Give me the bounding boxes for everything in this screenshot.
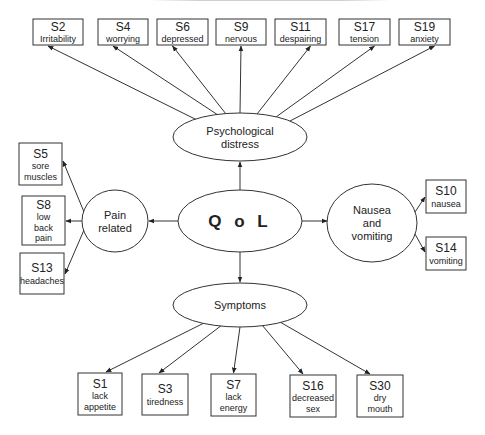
edge-psych-to-s6	[173, 46, 227, 114]
indicator-code: S11	[290, 20, 311, 34]
indicator-s17: S17tension	[339, 19, 390, 45]
indicator-s14: S14vomiting	[426, 237, 466, 270]
edge-symptoms-to-s16	[262, 325, 303, 374]
indicator-s13: S13headaches	[20, 253, 65, 294]
indicator-s16: S16decreasedsex	[290, 375, 336, 417]
indicator-label: nausea	[431, 199, 461, 209]
indicator-label: lack	[225, 392, 242, 402]
edge-symptoms-to-s1	[106, 322, 206, 372]
factor-psych-label: Psychological	[206, 125, 273, 137]
indicator-label: sore	[32, 161, 50, 171]
indicator-code: S17	[354, 20, 376, 34]
indicator-label: vomiting	[429, 256, 463, 266]
nodes-layer: Q o LPsychologicaldistressPainrelatedNau…	[19, 19, 466, 417]
indicator-code: S2	[51, 20, 66, 34]
indicator-label: nervous	[225, 34, 258, 44]
factor-nausea-label: and	[363, 217, 381, 229]
indicator-code: S6	[175, 20, 190, 34]
factor-pain-label: Pain	[104, 209, 126, 221]
qol-center-node-label: Q o L	[208, 212, 271, 231]
qol-center-node: Q o L	[178, 190, 302, 252]
indicator-label: back	[34, 223, 54, 233]
indicator-s7: S7lackenergy	[211, 374, 256, 416]
factor-psych: Psychologicaldistress	[173, 113, 307, 161]
indicator-label: tiredness	[147, 397, 184, 407]
edge-symptoms-to-s3	[159, 325, 222, 373]
indicator-s6: S6depressed	[157, 19, 208, 45]
indicator-code: S3	[158, 382, 173, 396]
qol-path-diagram: Q o LPsychologicaldistressPainrelatedNau…	[0, 0, 485, 435]
indicator-code: S30	[369, 379, 391, 393]
indicator-label: dry	[374, 393, 387, 403]
edge-psych-to-s9	[240, 46, 241, 113]
edge-psych-to-s17	[276, 46, 375, 117]
indicator-label: lack	[92, 391, 109, 401]
indicator-s9: S9nervous	[216, 19, 266, 45]
edge-symptoms-to-s30	[280, 322, 370, 374]
indicator-code: S1	[93, 377, 108, 391]
indicator-s19: S19anxiety	[399, 19, 450, 45]
indicator-label: pain	[35, 233, 52, 243]
indicator-label: energy	[220, 403, 248, 413]
indicator-label: low	[37, 212, 51, 222]
indicator-label: sex	[306, 404, 321, 414]
factor-pain: Painrelated	[82, 190, 148, 252]
indicator-code: S8	[36, 198, 51, 212]
edge-pain-to-s13	[65, 230, 84, 274]
edge-psych-to-s11	[257, 46, 311, 114]
indicator-label: depressed	[161, 34, 203, 44]
factor-pain-label: related	[98, 222, 132, 234]
indicator-label: despairing	[280, 34, 322, 44]
factor-symptoms: Symptoms	[173, 283, 307, 327]
indicator-s11: S11despairing	[275, 19, 326, 45]
indicator-s5: S5soremuscles	[19, 143, 62, 185]
indicator-label: mouth	[367, 404, 392, 414]
indicator-code: S14	[435, 241, 457, 255]
edge-psych-to-s2	[48, 46, 197, 120]
indicator-s3: S3tiredness	[142, 374, 188, 415]
factor-symptoms-label: Symptoms	[214, 299, 266, 311]
factor-psych-label: distress	[221, 138, 259, 150]
indicator-code: S19	[414, 20, 436, 34]
indicator-code: S13	[31, 261, 53, 275]
edge-nausea-to-s14	[415, 234, 425, 252]
indicator-label: Irritability	[40, 34, 77, 44]
indicator-s30: S30drymouth	[357, 375, 403, 417]
indicator-s4: S4worrying	[98, 19, 148, 45]
indicator-s10: S10nausea	[426, 180, 466, 213]
indicator-label: anxiety	[410, 34, 439, 44]
factor-nausea-label: vomiting	[352, 230, 393, 242]
indicator-code: S7	[226, 378, 241, 392]
edge-psych-to-s19	[290, 46, 435, 121]
indicator-code: S5	[33, 147, 48, 161]
indicator-label: worrying	[105, 34, 140, 44]
indicator-label: headaches	[20, 276, 65, 286]
indicator-s8: S8lowbackpain	[22, 196, 65, 245]
indicator-label: decreased	[292, 393, 334, 403]
indicator-code: S9	[234, 20, 249, 34]
factor-nausea: Nauseaandvomiting	[327, 184, 417, 262]
indicator-code: S16	[302, 379, 324, 393]
indicator-s2: S2Irritability	[33, 19, 83, 45]
indicator-label: tension	[350, 34, 379, 44]
indicator-code: S4	[116, 20, 131, 34]
factor-nausea-label: Nausea	[353, 204, 392, 216]
indicator-label: appetite	[84, 402, 116, 412]
edge-nausea-to-s10	[415, 197, 425, 212]
edge-pain-to-s5	[63, 161, 84, 212]
edge-symptoms-to-s7	[234, 327, 241, 373]
indicator-code: S10	[435, 184, 457, 198]
indicator-s1: S1lackappetite	[78, 373, 122, 415]
indicator-label: muscles	[24, 172, 58, 182]
